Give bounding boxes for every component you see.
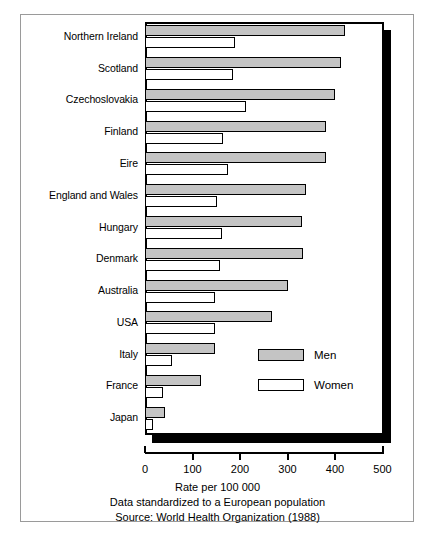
x-tick-200: [239, 452, 241, 460]
category-label-england-and-wales: England and Wales: [0, 190, 138, 201]
x-axis-title: Rate per 100 000: [0, 481, 435, 494]
x-tick-label-300: 300: [278, 463, 296, 475]
bar-men-denmark: [145, 248, 303, 259]
category-label-usa: USA: [0, 317, 138, 328]
category-label-japan: Japan: [0, 412, 138, 423]
category-label-northern-ireland: Northern Ireland: [0, 31, 138, 42]
category-label-italy: Italy: [0, 349, 138, 360]
bar-women-scotland: [145, 69, 233, 80]
bar-women-australia: [145, 292, 215, 303]
x-tick-label-500: 500: [373, 463, 391, 475]
x-tick-500: [382, 446, 384, 453]
bar-women-england-and-wales: [145, 196, 217, 207]
bar-women-eire: [145, 164, 228, 175]
legend-swatch-women: [258, 379, 304, 391]
category-label-eire: Eire: [0, 158, 138, 169]
bar-men-england-and-wales: [145, 184, 306, 195]
x-tick-label-400: 400: [326, 463, 344, 475]
chart-source: Source: World Health Organization (1988): [0, 511, 435, 524]
x-tick-100: [192, 452, 194, 460]
bar-women-japan: [145, 419, 153, 430]
bar-women-northern-ireland: [145, 37, 235, 48]
bar-women-hungary: [145, 228, 222, 239]
bar-men-italy: [145, 343, 215, 354]
bar-women-italy: [145, 355, 172, 366]
bar-women-france: [145, 387, 163, 398]
bar-men-australia: [145, 280, 288, 291]
x-tick-label-100: 100: [183, 463, 201, 475]
category-label-australia: Australia: [0, 285, 138, 296]
chart-figure: Northern IrelandScotlandCzechoslovakiaFi…: [0, 0, 435, 540]
x-tick-label-200: 200: [231, 463, 249, 475]
legend-label-men: Men: [314, 348, 336, 362]
category-label-scotland: Scotland: [0, 63, 138, 74]
bar-women-usa: [145, 323, 215, 334]
category-label-finland: Finland: [0, 126, 138, 137]
bar-men-finland: [145, 121, 326, 132]
bar-women-denmark: [145, 260, 220, 271]
legend-label-women: Women: [314, 378, 353, 392]
bar-women-czechoslovakia: [145, 101, 246, 112]
bar-men-france: [145, 375, 201, 386]
chart-note: Data standardized to a European populati…: [0, 496, 435, 509]
x-tick-0: [144, 446, 146, 453]
category-label-hungary: Hungary: [0, 222, 138, 233]
bar-men-japan: [145, 407, 165, 418]
bar-men-czechoslovakia: [145, 89, 335, 100]
bar-men-usa: [145, 311, 272, 322]
bar-men-northern-ireland: [145, 25, 345, 36]
bar-men-hungary: [145, 216, 302, 227]
x-axis-line: [145, 452, 384, 454]
x-tick-label-0: 0: [142, 463, 148, 475]
bar-women-finland: [145, 133, 223, 144]
bar-men-eire: [145, 152, 326, 163]
category-label-czechoslovakia: Czechoslovakia: [0, 94, 138, 105]
legend-swatch-men: [258, 349, 304, 361]
x-tick-400: [334, 452, 336, 460]
category-label-france: France: [0, 380, 138, 391]
category-label-denmark: Denmark: [0, 253, 138, 264]
bars-layer: [145, 22, 384, 435]
category-axis-labels: Northern IrelandScotlandCzechoslovakiaFi…: [0, 22, 138, 435]
bar-men-scotland: [145, 57, 341, 68]
x-tick-300: [287, 452, 289, 460]
